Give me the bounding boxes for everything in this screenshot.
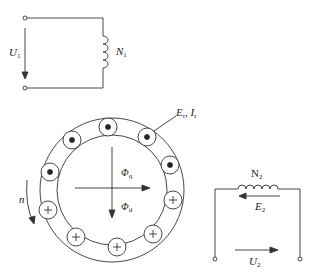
er-ir-label: Er, Ir xyxy=(176,107,197,120)
n2-label: N2 xyxy=(251,168,262,181)
machine-diagram: U1 N1 Er, Ir Φq Φd n N2 E2 U2 xyxy=(0,0,318,278)
terminal-icon xyxy=(23,16,27,20)
terminal-icon xyxy=(23,86,27,90)
flux-q-label: Φq xyxy=(121,168,132,180)
rotation-arrow-icon xyxy=(27,180,33,222)
coil-n2-icon xyxy=(238,185,278,189)
terminal-icon xyxy=(213,257,217,261)
speed-label: n xyxy=(19,194,25,205)
u1-label: U1 xyxy=(9,47,20,60)
e2-label: E2 xyxy=(255,201,265,214)
cross-conductors xyxy=(39,191,182,256)
terminal-icon xyxy=(298,257,302,261)
u2-label: U2 xyxy=(249,256,260,269)
secondary-circuit xyxy=(213,185,302,261)
flux-d-label: Φd xyxy=(121,202,132,214)
diagram-graphics xyxy=(0,0,318,278)
coil-n1-icon xyxy=(103,36,108,68)
n1-label: N1 xyxy=(116,46,127,59)
primary-circuit xyxy=(22,16,108,90)
dot-conductors xyxy=(41,118,179,181)
